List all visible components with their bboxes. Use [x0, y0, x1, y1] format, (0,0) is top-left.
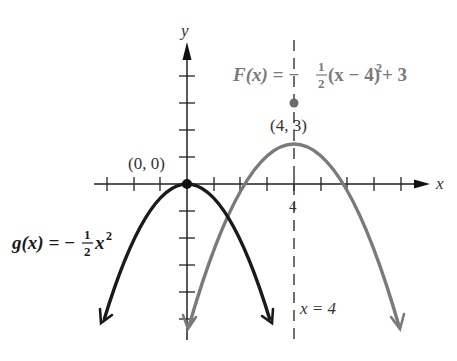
svg-text:g(x) = −: g(x) = − — [11, 232, 76, 254]
vertex-point-F — [290, 99, 299, 108]
graph-canvas: y x 4 (0, 0) (4, 3) x = 4 F(x) = − 1 2 (… — [0, 0, 457, 361]
svg-text:1: 1 — [318, 59, 325, 74]
vertex-point-label: (4, 3) — [270, 116, 307, 135]
x-axis-arrow-icon — [414, 180, 430, 189]
tick-label-4: 4 — [289, 198, 297, 214]
svg-text:2: 2 — [318, 76, 325, 91]
g-formula: g(x) = − 1 2 x 2 — [11, 227, 112, 259]
x-axis-label: x — [435, 174, 444, 193]
vertex-point-g — [182, 179, 192, 189]
svg-text:F(x) = −: F(x) = − — [232, 64, 300, 86]
svg-text:2: 2 — [84, 244, 91, 259]
origin-point-label: (0, 0) — [128, 154, 165, 173]
y-axis-label: y — [179, 21, 189, 40]
svg-text:+ 3: + 3 — [382, 64, 407, 85]
asymptote-label: x = 4 — [299, 299, 337, 318]
svg-text:1: 1 — [84, 227, 91, 242]
svg-text:x: x — [94, 232, 105, 253]
x-axis — [94, 177, 430, 191]
svg-text:2: 2 — [106, 229, 112, 243]
F-formula: F(x) = − 1 2 (x − 4) 2 + 3 — [232, 59, 407, 91]
y-axis — [179, 42, 195, 340]
y-axis-arrow-icon — [183, 42, 192, 60]
svg-text:(x − 4): (x − 4) — [328, 64, 380, 86]
